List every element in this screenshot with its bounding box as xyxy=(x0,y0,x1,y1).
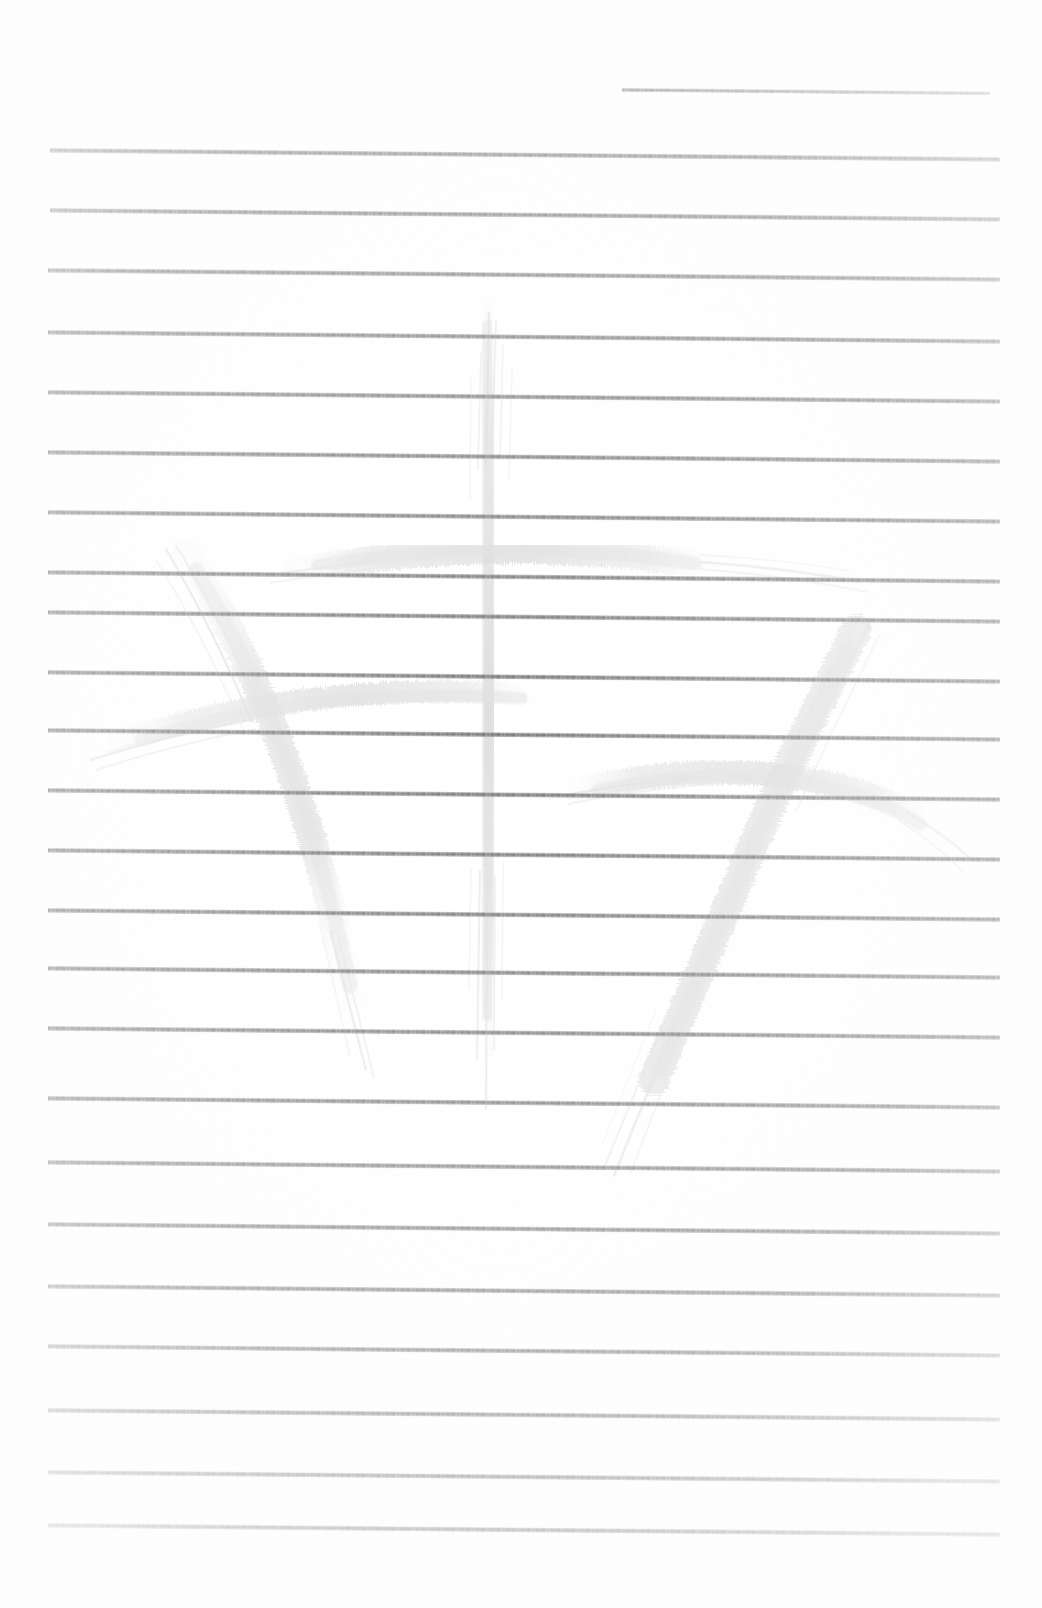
rule-line xyxy=(48,908,1000,922)
rule-line xyxy=(48,570,1000,584)
center-horizontal-crossbar-group xyxy=(262,550,868,592)
left-horizontal-stroke-group xyxy=(90,692,530,770)
rule-line xyxy=(48,390,1000,404)
rule-line xyxy=(48,268,1000,282)
rule-line xyxy=(48,1222,1000,1236)
rule-line xyxy=(622,88,990,96)
rule-line xyxy=(48,1284,1000,1298)
rule-line xyxy=(48,450,1000,464)
rule-line xyxy=(48,966,1000,980)
rule-line xyxy=(48,1026,1000,1040)
rule-line xyxy=(50,208,1000,222)
rule-line xyxy=(48,728,1000,742)
right-curved-downstroke-group xyxy=(602,612,880,1176)
rule-line xyxy=(48,1344,1000,1358)
rule-line xyxy=(48,848,1000,862)
rule-line xyxy=(48,1470,1000,1484)
scanned-page xyxy=(0,0,1042,1608)
rule-line xyxy=(48,1096,1000,1110)
right-horizontal-stroke-group xyxy=(562,772,972,872)
rule-line xyxy=(48,610,1000,624)
rule-line xyxy=(48,788,1000,802)
calligraphy-watermark xyxy=(0,0,1042,1608)
left-curved-downstroke-group xyxy=(156,545,374,1078)
rule-line xyxy=(48,1523,1000,1537)
rule-line xyxy=(50,148,1000,162)
ruled-lines-layer xyxy=(0,0,1042,1608)
rule-line xyxy=(48,1408,1000,1422)
center-vertical-stroke-group xyxy=(469,312,512,1110)
rule-line xyxy=(48,1160,1000,1174)
rule-line xyxy=(48,670,1000,684)
paper-texture xyxy=(0,0,1042,1608)
rule-line xyxy=(48,510,1000,524)
rule-line xyxy=(48,330,1000,344)
